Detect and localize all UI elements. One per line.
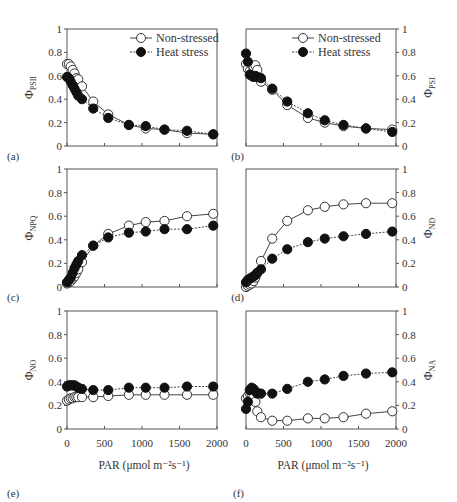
panel-label: (f) xyxy=(233,487,244,500)
panel-f: 00.20.40.60.810500100015002000PAR (μmol … xyxy=(233,305,437,500)
heat-stress-point xyxy=(243,397,252,406)
series-line xyxy=(67,226,213,283)
non-stressed-point xyxy=(268,234,277,243)
heat-stress-point xyxy=(160,383,169,392)
heat-stress-point xyxy=(283,97,292,106)
y-tick-label: 0.6 xyxy=(402,352,416,364)
plot-frame xyxy=(67,311,217,429)
series-line xyxy=(246,64,392,130)
legend-open-circle-icon xyxy=(137,34,146,43)
heat-stress-point xyxy=(283,245,292,254)
x-tick-label: 2000 xyxy=(206,437,229,449)
heat-stress-point xyxy=(303,238,312,247)
panel-a: 00.20.40.60.81ΦPSII(a)Non-stressedHeat s… xyxy=(7,23,219,163)
y-tick-label: 0 xyxy=(57,281,63,293)
heat-stress-point xyxy=(182,126,191,135)
heat-stress-point xyxy=(124,228,133,237)
x-axis-label: PAR (μmol m⁻²s⁻¹) xyxy=(277,459,368,472)
heat-stress-point xyxy=(283,384,292,393)
panel-label: (b) xyxy=(231,150,244,163)
y-tick-label: 0.6 xyxy=(402,210,416,222)
x-tick-label: 1000 xyxy=(310,437,333,449)
non-stressed-point xyxy=(268,416,277,425)
y-tick-label: 0 xyxy=(402,281,408,293)
heat-stress-point xyxy=(320,234,329,243)
y-tick-label: 0.8 xyxy=(48,46,62,58)
y-tick-label: 0.6 xyxy=(48,210,62,222)
heat-stress-point xyxy=(388,227,397,236)
heat-stress-point xyxy=(182,382,191,391)
panel-b: 00.20.40.60.81ΦPSI(b)Non-stressedHeat st… xyxy=(231,23,437,163)
x-tick-label: 1000 xyxy=(131,437,154,449)
series-line xyxy=(246,54,392,132)
heat-stress-point xyxy=(182,225,191,234)
non-stressed-point xyxy=(339,200,348,209)
y-axis-label: ΦND xyxy=(421,218,437,239)
x-axis-label: PAR (μmol m⁻²s⁻¹) xyxy=(98,459,189,472)
panel-label: (c) xyxy=(7,291,20,304)
y-tick-label: 0 xyxy=(402,140,408,152)
non-stressed-point xyxy=(339,413,348,422)
heat-stress-point xyxy=(339,232,348,241)
heat-stress-point xyxy=(209,130,218,139)
plot-frame xyxy=(246,311,396,429)
y-tick-label: 0.8 xyxy=(402,46,416,58)
x-tick-label: 500 xyxy=(275,437,292,449)
heat-stress-point xyxy=(320,116,329,125)
plot-frame xyxy=(67,169,217,287)
panel-label: (e) xyxy=(7,487,20,500)
legend-filled-circle-icon xyxy=(137,48,146,57)
heat-stress-point xyxy=(124,120,133,129)
heat-stress-point xyxy=(268,84,277,93)
heat-stress-point xyxy=(89,104,98,113)
y-tick-label: 0.8 xyxy=(48,187,62,199)
panel-e: 00.20.40.60.810500100015002000PAR (μmol … xyxy=(7,305,229,500)
y-tick-label: 1 xyxy=(57,163,63,175)
non-stressed-point xyxy=(388,199,397,208)
y-tick-label: 0.2 xyxy=(402,117,416,129)
heat-stress-point xyxy=(303,377,312,386)
heat-stress-point xyxy=(104,233,113,242)
x-tick-label: 1500 xyxy=(348,437,371,449)
y-tick-label: 0.6 xyxy=(402,70,416,82)
panel-label: (a) xyxy=(7,150,20,163)
legend-label: Non-stressed xyxy=(318,31,381,45)
x-tick-label: 1500 xyxy=(169,437,192,449)
plot-frame xyxy=(246,169,396,287)
y-tick-label: 0.6 xyxy=(48,70,62,82)
y-tick-label: 0.8 xyxy=(48,329,62,341)
y-tick-label: 0.4 xyxy=(402,93,416,105)
y-tick-label: 0.4 xyxy=(402,376,416,388)
heat-stress-point xyxy=(77,384,86,393)
panel-label: (d) xyxy=(231,291,244,304)
y-tick-label: 0.4 xyxy=(48,93,62,105)
heat-stress-point xyxy=(339,371,348,380)
non-stressed-point xyxy=(283,416,292,425)
non-stressed-point xyxy=(256,413,265,422)
y-tick-label: 0.6 xyxy=(48,352,62,364)
legend-label: Heat stress xyxy=(318,45,371,59)
x-tick-label: 500 xyxy=(96,437,113,449)
y-tick-label: 0 xyxy=(402,423,408,435)
heat-stress-point xyxy=(241,49,250,58)
heat-stress-point xyxy=(256,265,265,274)
series-line xyxy=(246,203,392,287)
non-stressed-point xyxy=(320,414,329,423)
heat-stress-point xyxy=(361,369,370,378)
series-line xyxy=(246,394,392,421)
y-axis-label: ΦNPQ xyxy=(22,215,38,240)
heat-stress-point xyxy=(320,375,329,384)
y-tick-label: 0 xyxy=(57,140,63,152)
heat-stress-point xyxy=(209,221,218,230)
heat-stress-point xyxy=(77,95,86,104)
non-stressed-point xyxy=(303,414,312,423)
heat-stress-point xyxy=(243,57,252,66)
y-axis-label: ΦPSI xyxy=(421,77,437,98)
heat-stress-point xyxy=(256,74,265,83)
panel-c: 00.20.40.60.81ΦNPQ(c) xyxy=(7,163,218,304)
heat-stress-point xyxy=(141,227,150,236)
non-stressed-point xyxy=(388,407,397,416)
y-tick-label: 1 xyxy=(57,305,63,317)
y-tick-label: 0.4 xyxy=(402,234,416,246)
heat-stress-point xyxy=(104,113,113,122)
